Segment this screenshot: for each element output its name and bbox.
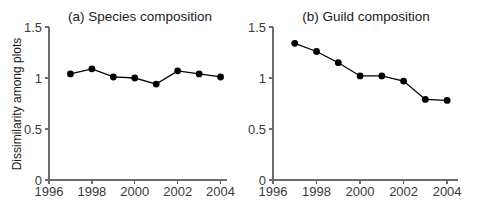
- y-tick-label: 1.5: [248, 20, 266, 35]
- y-tick-label: 1: [35, 71, 42, 86]
- y-tick-label: 0.5: [24, 122, 42, 137]
- x-tick-label: 2000: [120, 184, 149, 199]
- x-tick-label: 1996: [259, 184, 288, 199]
- data-point: [357, 73, 364, 80]
- y-tick-label: 1.5: [24, 20, 42, 35]
- data-point: [153, 81, 160, 88]
- data-point: [217, 74, 224, 81]
- chart-panel-b: (b) Guild composition00.511.519961998200…: [248, 9, 462, 199]
- data-point: [313, 48, 320, 55]
- data-point: [67, 71, 74, 78]
- data-point: [335, 59, 342, 66]
- data-point: [400, 78, 407, 85]
- data-point: [88, 65, 95, 72]
- x-tick-label: 1996: [35, 184, 64, 199]
- data-point: [131, 75, 138, 82]
- x-tick-label: 2002: [163, 184, 192, 199]
- data-point: [444, 97, 451, 104]
- y-axis-title: Dissimilarity among plots: [10, 38, 24, 171]
- figure-container: (a) Species composition00.511.5199619982…: [0, 0, 478, 210]
- y-tick-label: 1: [259, 71, 266, 86]
- x-tick-label: 2000: [346, 184, 375, 199]
- data-point: [378, 73, 385, 80]
- x-tick-label: 2004: [206, 184, 235, 199]
- panel-title: (a) Species composition: [68, 9, 212, 24]
- x-tick-label: 2004: [433, 184, 462, 199]
- data-point: [196, 71, 203, 78]
- y-tick-label: 0.5: [248, 122, 266, 137]
- data-point: [291, 40, 298, 47]
- data-point: [174, 67, 181, 74]
- panel-title: (b) Guild composition: [302, 9, 430, 24]
- x-tick-label: 1998: [77, 184, 106, 199]
- data-point: [422, 96, 429, 103]
- data-point: [110, 74, 117, 81]
- chart-panel-a: (a) Species composition00.511.5199619982…: [24, 9, 235, 199]
- two-panel-line-chart: (a) Species composition00.511.5199619982…: [0, 0, 478, 210]
- x-tick-label: 1998: [302, 184, 331, 199]
- x-tick-label: 2002: [389, 184, 418, 199]
